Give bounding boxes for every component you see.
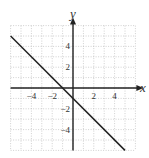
x-tick-label: 4 [112, 91, 117, 101]
y-tick-label: −2 [60, 104, 70, 114]
y-tick-label: 2 [66, 62, 71, 72]
coordinate-plane-chart: −4−22442−2−4 x y [0, 0, 149, 158]
y-tick-label: −4 [60, 125, 70, 135]
x-tick-label: −4 [27, 91, 37, 101]
x-tick-label: 2 [92, 91, 97, 101]
y-axis-label: y [68, 6, 76, 21]
axes [11, 18, 144, 151]
x-tick-label: −2 [47, 91, 57, 101]
y-tick-label: 4 [66, 41, 71, 51]
x-axis-label: x [139, 80, 146, 95]
